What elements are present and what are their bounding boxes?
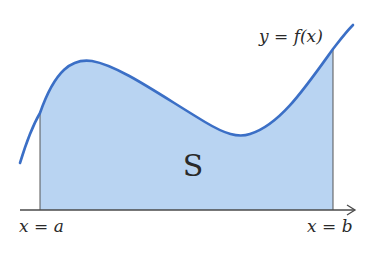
diagram-canvas: S y = f(x) x = a x = b <box>0 0 379 254</box>
right-bound-label: x = b <box>307 216 353 236</box>
left-bound-label: x = a <box>19 216 64 236</box>
region-label: S <box>183 148 204 183</box>
shaded-region <box>40 49 333 210</box>
curve-label: y = f(x) <box>258 26 323 46</box>
area-diagram: S y = f(x) x = a x = b <box>0 0 379 254</box>
